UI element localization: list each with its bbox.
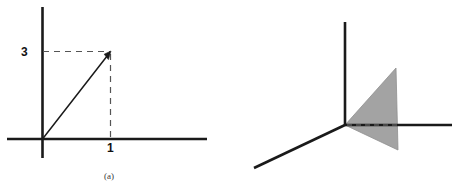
y-axis-value-label: 3 — [21, 46, 28, 58]
figure-root: 3 1 (a) (0,0,0) (2,2,2) (2,2,0) (b) — [0, 0, 456, 192]
vector-arrow-shaft — [43, 56, 108, 140]
panel-b-canvas — [228, 0, 456, 192]
x-axis-line — [254, 125, 345, 168]
x-axis-value-label: 1 — [107, 142, 114, 154]
panel-a-caption: (a) — [104, 172, 114, 181]
panel-a-2d-vector: 3 1 (a) — [0, 0, 228, 192]
panel-b-3d-triangle: (0,0,0) (2,2,2) (2,2,0) (b) — [228, 0, 456, 192]
triangle-face — [345, 68, 398, 150]
panel-a-canvas — [0, 0, 228, 192]
